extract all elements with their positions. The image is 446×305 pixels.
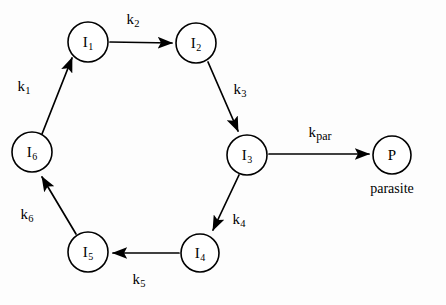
rate-label-k4-sub: 4 (240, 218, 245, 229)
rate-label-k6-text: k (20, 206, 28, 222)
rate-label-k1: k1 (17, 79, 30, 97)
node-label-P: P (388, 148, 396, 163)
rate-label-k1-text: k (17, 78, 25, 94)
node-label-I2-sub: 2 (196, 42, 201, 53)
node-label-I3: I3 (242, 148, 252, 165)
node-label-I3-sub: 3 (247, 154, 252, 165)
node-label-I2: I2 (191, 36, 201, 53)
rate-label-kpar: kpar (308, 125, 331, 142)
edge-I5-to-I6 (42, 177, 76, 234)
rate-label-k2-text: k (126, 11, 134, 27)
node-label-I5-sub: 5 (88, 251, 93, 262)
rate-label-k6-sub: 6 (28, 213, 33, 224)
node-label-I1-sub: 1 (88, 41, 93, 52)
rate-label-k4-text: k (232, 211, 240, 227)
edge-I6-to-I1 (42, 58, 72, 134)
node-label-I5: I5 (83, 245, 93, 262)
node-label-I4: I4 (195, 246, 205, 263)
rate-label-k3: k3 (233, 82, 246, 100)
node-label-P-text: P (388, 147, 396, 163)
rate-label-k6: k6 (20, 207, 33, 225)
edge-I1-to-I2 (110, 42, 172, 43)
rate-label-k3-sub: 3 (241, 88, 246, 99)
parasite-caption: parasite (370, 182, 414, 196)
rate-label-k5: k5 (132, 272, 145, 290)
rate-label-k2: k2 (126, 12, 139, 30)
node-label-I4-sub: 4 (200, 252, 205, 263)
rate-label-kpar-sub: par (316, 130, 331, 144)
diagram-svg (0, 0, 446, 305)
rate-label-kpar-text: k (308, 124, 316, 140)
rate-label-k2-sub: 2 (134, 18, 139, 29)
rate-label-k1-sub: 1 (25, 85, 30, 96)
rate-label-k3-text: k (233, 81, 241, 97)
rate-label-k5-sub: 5 (140, 278, 145, 289)
rate-label-k4: k4 (232, 212, 245, 230)
rate-label-k5-text: k (132, 271, 140, 287)
node-label-I6: I6 (27, 145, 37, 162)
node-label-I1: I1 (83, 35, 93, 52)
diagram-canvas: I1 I2 I3 I4 I5 I6 P k1 k2 k3 k4 k5 k6 kp… (0, 0, 446, 305)
node-label-I6-sub: 6 (32, 151, 37, 162)
